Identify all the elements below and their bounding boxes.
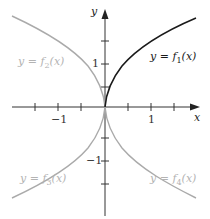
label-f4: y = f4(x) <box>150 173 196 187</box>
x-axis-arrow-icon <box>190 104 200 111</box>
label-f3: y = f3(x) <box>20 173 66 187</box>
x-tick-label-neg1: −1 <box>51 114 67 125</box>
y-axis-arrow-icon <box>102 9 109 19</box>
label-f2: y = f2(x) <box>18 56 64 70</box>
y-axis-label: y <box>91 6 97 17</box>
x-axis-label: x <box>194 112 200 123</box>
label-f1: y = f1(x) <box>150 51 196 65</box>
x-tick-label-1: 1 <box>148 114 155 125</box>
y-tick-label-1: 1 <box>92 58 99 69</box>
y-tick-label-neg1: −1 <box>86 155 102 166</box>
